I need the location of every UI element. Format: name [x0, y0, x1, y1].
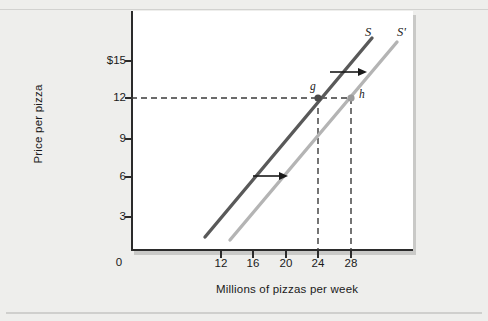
y-tick-label-12: 12	[80, 91, 126, 103]
plot-area	[131, 11, 413, 251]
bottom-divider-rule	[6, 312, 482, 314]
x-tick-label-16: 16	[238, 257, 268, 269]
y-tick-label-15: $15	[80, 54, 126, 66]
curve-label-s-prime: S'	[397, 25, 406, 40]
y-axis-label: Price per pizza	[32, 64, 44, 184]
y-tick-label-3: 3	[80, 210, 126, 222]
top-divider-rule	[0, 9, 488, 10]
point-label-g: g	[310, 80, 316, 92]
point-label-h: h	[359, 88, 365, 100]
x-tick-label-12: 12	[206, 257, 236, 269]
x-tick-label-24: 24	[303, 257, 333, 269]
supply-curve-figure: Price per pizza $15 12 9 6 3 0 12 16 20 …	[0, 0, 488, 321]
origin-label: 0	[105, 256, 133, 268]
x-tick-label-20: 20	[271, 257, 301, 269]
x-axis-label: Millions of pizzas per week	[216, 283, 358, 295]
y-tick-label-9: 9	[80, 132, 126, 144]
y-tick-label-6: 6	[80, 170, 126, 182]
x-tick-label-28: 28	[336, 257, 366, 269]
curve-label-s: S	[365, 25, 371, 40]
